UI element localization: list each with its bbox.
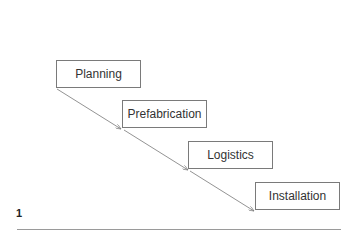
- arrow-planning-to-prefabrication: [57, 89, 121, 129]
- step-label: Logistics: [207, 148, 254, 162]
- arrow-prefabrication-to-logistics: [124, 130, 188, 170]
- step-label: Prefabrication: [127, 107, 201, 121]
- step-label: Planning: [75, 67, 122, 81]
- step-installation: Installation: [255, 182, 340, 210]
- step-planning: Planning: [56, 60, 141, 88]
- step-prefabrication: Prefabrication: [122, 100, 207, 128]
- step-label: Installation: [269, 189, 326, 203]
- arrow-logistics-to-installation: [190, 171, 254, 211]
- horizontal-divider: [17, 229, 341, 230]
- figure-number: 1: [16, 207, 22, 219]
- step-logistics: Logistics: [188, 141, 273, 169]
